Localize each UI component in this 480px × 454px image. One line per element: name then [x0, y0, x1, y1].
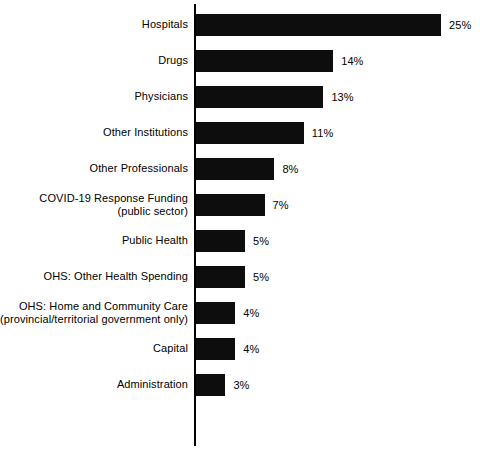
bar-category-label-line1: Physicians	[134, 90, 188, 104]
bar-row: Physicians13%	[0, 79, 480, 115]
bar-row: OHS: Home and Community Care(provincial/…	[0, 295, 480, 331]
bar	[196, 14, 441, 36]
bar-category-label-line1: OHS: Home and Community Care	[19, 300, 188, 314]
bar	[196, 158, 274, 180]
bar-category-label: COVID-19 Response Funding(public sector)	[39, 187, 188, 223]
bar-category-label-line2: (public sector)	[117, 205, 188, 219]
bar-row: COVID-19 Response Funding(public sector)…	[0, 187, 480, 223]
bar-category-label: Hospitals	[142, 7, 188, 43]
bar-row: Administration3%	[0, 367, 480, 403]
bar-category-label-line1: Administration	[117, 378, 188, 392]
bar-category-label-line1: COVID-19 Response Funding	[39, 192, 188, 206]
bar-value-label: 8%	[282, 151, 298, 187]
bar-category-label: Administration	[117, 367, 188, 403]
bar-category-label: Physicians	[134, 79, 188, 115]
bar-category-label-line1: Capital	[153, 342, 188, 356]
bar-row: Hospitals25%	[0, 7, 480, 43]
horizontal-bar-chart: Hospitals25%Drugs14%Physicians13%Other I…	[0, 0, 480, 454]
bar-row: Public Health5%	[0, 223, 480, 259]
bar-category-label-line1: Hospitals	[142, 18, 188, 32]
bar-category-label: OHS: Other Health Spending	[44, 259, 188, 295]
bar-category-label: Other Institutions	[103, 115, 188, 151]
bar-category-label: Public Health	[122, 223, 188, 259]
bar-value-label: 5%	[253, 259, 269, 295]
bar	[196, 86, 323, 108]
bar-category-label-line1: Drugs	[158, 54, 188, 68]
bar-row: Other Institutions11%	[0, 115, 480, 151]
bar-value-label: 4%	[243, 331, 259, 367]
bar-category-label-line1: Public Health	[122, 234, 188, 248]
bar	[196, 230, 245, 252]
bar	[196, 374, 225, 396]
bar-value-label: 25%	[449, 7, 471, 43]
bar-category-label-line1: Other Professionals	[90, 162, 189, 176]
bar-category-label: Drugs	[158, 43, 188, 79]
bar	[196, 302, 235, 324]
bar	[196, 122, 304, 144]
bar-category-label: Capital	[153, 331, 188, 367]
bar	[196, 50, 333, 72]
bar-value-label: 14%	[341, 43, 363, 79]
bar	[196, 194, 265, 216]
bar-value-label: 3%	[233, 367, 249, 403]
bar	[196, 266, 245, 288]
bar-row: Other Professionals8%	[0, 151, 480, 187]
bar-category-label: OHS: Home and Community Care(provincial/…	[0, 295, 188, 331]
bar-category-label-line1: OHS: Other Health Spending	[44, 270, 188, 284]
bar-value-label: 11%	[312, 115, 334, 151]
bar-value-label: 4%	[243, 295, 259, 331]
bar-category-label: Other Professionals	[90, 151, 189, 187]
bar-value-label: 5%	[253, 223, 269, 259]
bar-row: OHS: Other Health Spending5%	[0, 259, 480, 295]
bar	[196, 338, 235, 360]
bar-row: Drugs14%	[0, 43, 480, 79]
bar-value-label: 13%	[331, 79, 353, 115]
bar-category-label-line1: Other Institutions	[103, 126, 188, 140]
bar-category-label-line2: (provincial/territorial government only)	[0, 313, 188, 327]
bar-value-label: 7%	[273, 187, 289, 223]
bar-row: Capital4%	[0, 331, 480, 367]
